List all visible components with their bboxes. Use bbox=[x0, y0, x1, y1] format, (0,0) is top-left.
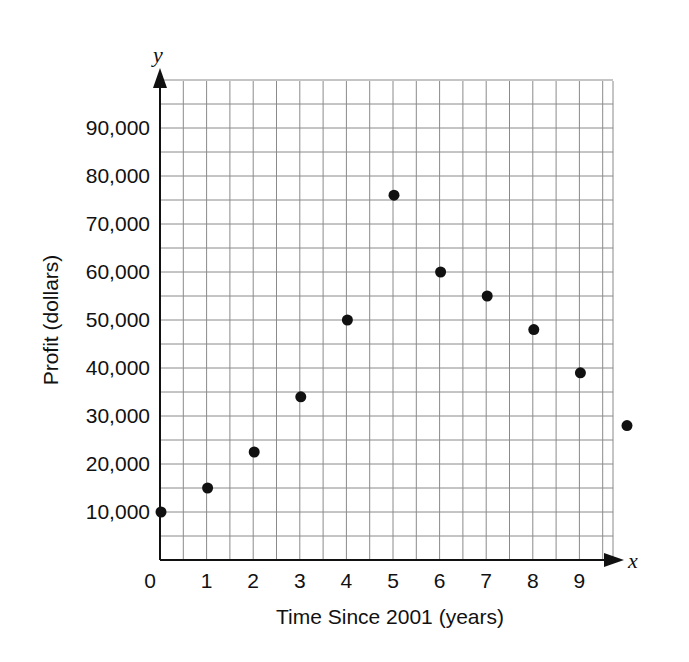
data-point bbox=[528, 324, 539, 335]
data-point bbox=[482, 291, 493, 302]
data-point bbox=[342, 315, 353, 326]
x-tick-labels: 0123456789 bbox=[144, 569, 585, 592]
data-points bbox=[156, 190, 633, 518]
y-tick-label: 50,000 bbox=[86, 308, 150, 331]
data-point bbox=[389, 190, 400, 201]
grid bbox=[160, 80, 613, 560]
data-point bbox=[622, 420, 633, 431]
y-axis-title: Profit (dollars) bbox=[39, 255, 62, 386]
scatter-chart: y x 10,00020,00030,00040,00050,00060,000… bbox=[0, 0, 689, 662]
x-tick-label: 8 bbox=[527, 569, 539, 592]
x-tick-label: 6 bbox=[434, 569, 446, 592]
y-axis-arrow-icon bbox=[153, 68, 167, 88]
y-tick-label: 60,000 bbox=[86, 260, 150, 283]
y-tick-labels: 10,00020,00030,00040,00050,00060,00070,0… bbox=[86, 116, 150, 523]
data-point bbox=[295, 391, 306, 402]
y-tick-label: 70,000 bbox=[86, 212, 150, 235]
data-point bbox=[435, 267, 446, 278]
y-tick-label: 20,000 bbox=[86, 452, 150, 475]
y-tick-label: 10,000 bbox=[86, 500, 150, 523]
y-tick-label: 40,000 bbox=[86, 356, 150, 379]
x-axis-title: Time Since 2001 (years) bbox=[276, 605, 504, 628]
y-axis-letter: y bbox=[151, 42, 163, 67]
x-tick-label: 5 bbox=[387, 569, 399, 592]
data-point bbox=[156, 507, 167, 518]
y-tick-label: 30,000 bbox=[86, 404, 150, 427]
x-tick-label: 1 bbox=[201, 569, 213, 592]
x-tick-label: 9 bbox=[574, 569, 586, 592]
x-tick-label: 4 bbox=[341, 569, 353, 592]
x-axis-letter: x bbox=[627, 548, 638, 573]
x-tick-label: 3 bbox=[294, 569, 306, 592]
data-point bbox=[249, 447, 260, 458]
x-tick-label: 7 bbox=[480, 569, 492, 592]
x-tick-label: 2 bbox=[247, 569, 259, 592]
y-tick-label: 80,000 bbox=[86, 164, 150, 187]
data-point bbox=[202, 483, 213, 494]
data-point bbox=[575, 367, 586, 378]
x-axis-arrow-icon bbox=[604, 553, 624, 567]
x-tick-label: 0 bbox=[144, 569, 156, 592]
y-tick-label: 90,000 bbox=[86, 116, 150, 139]
axes: y x bbox=[151, 42, 638, 573]
